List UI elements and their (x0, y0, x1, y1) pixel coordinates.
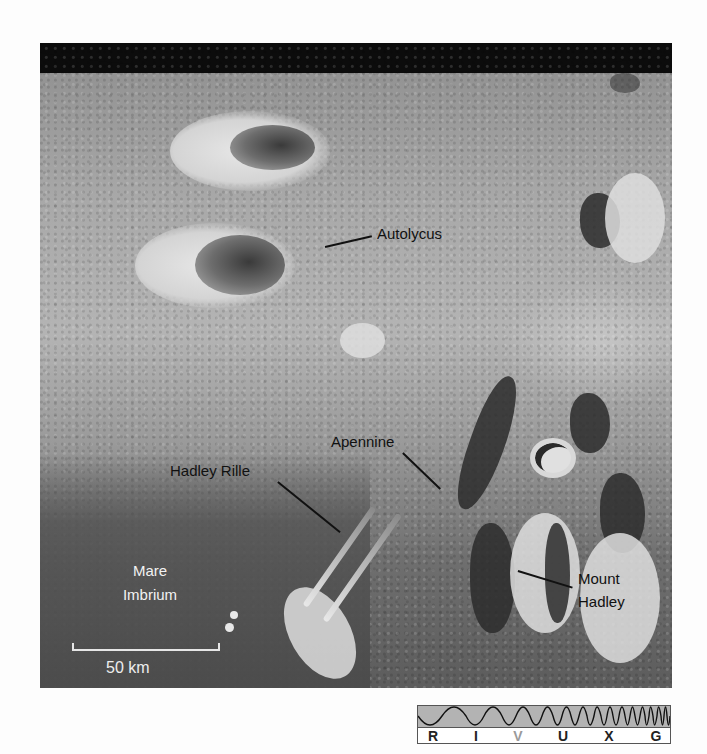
label-mare: Mare (120, 562, 180, 580)
label-imbrium: Imbrium (115, 586, 185, 604)
small-crater (225, 623, 234, 632)
label-mount-hadley-line1: Mount (578, 570, 620, 588)
crater-autolycus-bowl (195, 235, 285, 295)
crater-upper-bowl (230, 125, 315, 170)
label-hadley-rille: Hadley Rille (170, 462, 250, 480)
lunar-surface-photo: Autolycus Apennine Hadley Rille Mount Ha… (40, 43, 672, 688)
scale-bar-label: 50 km (106, 659, 150, 677)
terrain-shadow (610, 73, 640, 93)
wave-band (418, 706, 670, 728)
wave-icon (418, 706, 670, 727)
reverse-page-bleed (40, 2, 680, 42)
terrain-highlight (605, 173, 665, 263)
label-apennine: Apennine (331, 433, 394, 451)
rivuxg-spectrum-bar: R I V U X G (417, 705, 671, 744)
band-i: I (468, 728, 484, 744)
band-v-highlighted: V (510, 728, 526, 744)
mountain-shadow (470, 523, 515, 633)
mountain-shadow (570, 393, 610, 453)
small-crater (530, 438, 576, 478)
band-r: R (425, 728, 441, 744)
band-g: G (648, 728, 664, 744)
mountain-shadow (545, 523, 570, 623)
scale-bar (72, 643, 220, 651)
band-u: U (555, 728, 571, 744)
small-crater (230, 611, 238, 619)
label-autolycus: Autolycus (377, 225, 442, 243)
label-mount-hadley-line2: Hadley (578, 593, 625, 611)
hill-highlight (340, 323, 385, 358)
band-x: X (601, 728, 617, 744)
